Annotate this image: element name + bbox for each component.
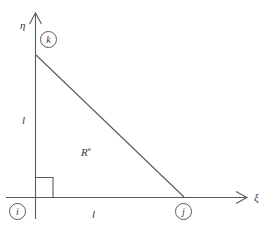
node-j-label: j bbox=[182, 206, 185, 217]
horizontal-leg-length-label: l bbox=[92, 209, 95, 220]
node-k: k bbox=[40, 31, 57, 48]
node-j: j bbox=[175, 203, 192, 220]
region-label-superscript: e bbox=[88, 145, 91, 153]
node-i-label: i bbox=[16, 206, 19, 217]
triangle-element-figure: η ξ l l Re k i j bbox=[0, 0, 276, 237]
eta-axis-label: η bbox=[20, 20, 25, 31]
xi-axis-label: ξ bbox=[254, 192, 259, 203]
triangle-hypotenuse bbox=[36, 55, 184, 197]
node-k-label: k bbox=[46, 34, 50, 45]
region-label: Re bbox=[81, 146, 91, 158]
eta-axis-line bbox=[30, 13, 42, 219]
xi-axis-line bbox=[6, 192, 247, 204]
right-angle-marker bbox=[36, 178, 54, 198]
vertical-leg-length-label: l bbox=[22, 115, 25, 126]
region-label-base: R bbox=[81, 146, 88, 158]
node-i: i bbox=[9, 203, 26, 220]
